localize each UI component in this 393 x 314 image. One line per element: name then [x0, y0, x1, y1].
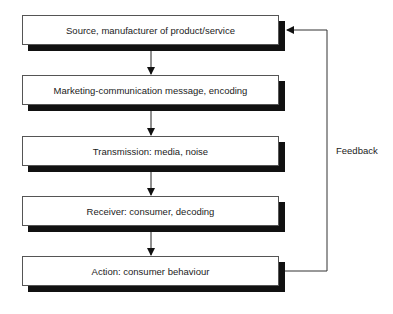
- node-message: Marketing-communication message, encodin…: [22, 75, 279, 105]
- feedback-arrow: [285, 30, 327, 271]
- node-receiver: Receiver: consumer, decoding: [22, 196, 279, 226]
- node-transmission: Transmission: media, noise: [22, 136, 279, 166]
- feedback-label: Feedback: [336, 145, 378, 156]
- node-source: Source, manufacturer of product/service: [22, 15, 279, 45]
- node-action: Action: consumer behaviour: [22, 256, 279, 286]
